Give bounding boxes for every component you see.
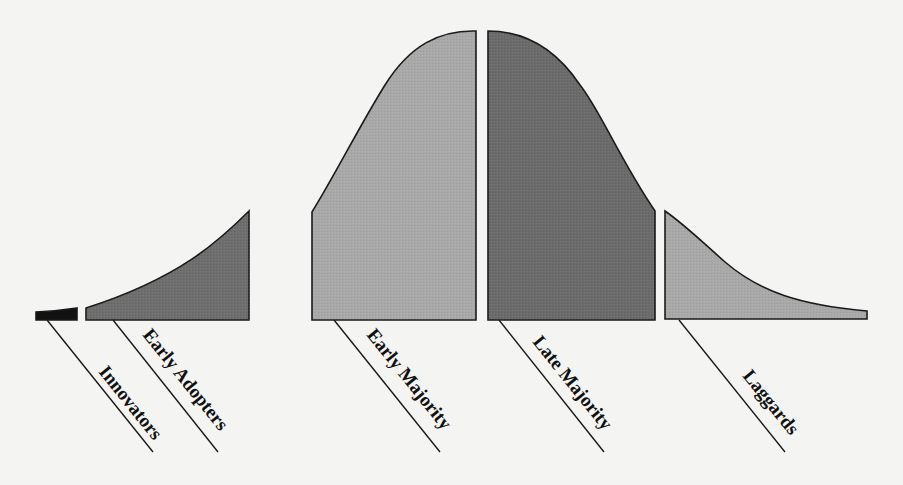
bell-curve-svg: Innovators Early Adopters Early Majority… [0,0,903,485]
segment-late-majority [488,31,655,320]
segment-early-adopters [86,211,249,320]
label-laggards: Laggards [739,365,804,438]
segment-innovators [36,308,77,320]
innovators-area [36,308,77,320]
segment-early-majority [312,31,476,320]
leader-line-innovators [47,320,153,452]
label-late-majority: Late Majority [529,331,617,434]
segment-laggards [665,211,867,319]
label-early-majority: Early Majority [363,324,457,433]
adoption-curve-diagram: Innovators Early Adopters Early Majority… [0,0,903,485]
